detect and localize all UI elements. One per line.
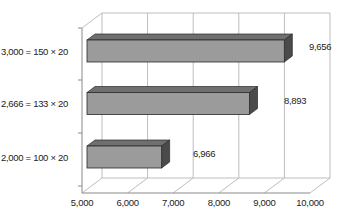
bar-top-face: [87, 87, 258, 93]
bar-chart-3d: 3,000 = 150 × 202,666 = 133 × 202,000 = …: [0, 0, 338, 215]
category-label: 3,000 = 150 × 20: [1, 46, 68, 57]
x-tick-label: 5,000: [71, 197, 93, 208]
x-tick-label: 10,000: [296, 197, 323, 208]
x-tick-label: 9,000: [253, 197, 275, 208]
floor-gridline: [128, 178, 148, 193]
bar-top-face: [87, 140, 170, 146]
floor-gridline: [310, 178, 330, 193]
bar-front-face: [87, 93, 250, 115]
value-label: 8,893: [284, 95, 306, 106]
floor-gridline: [219, 178, 239, 193]
bar-front-face: [87, 40, 284, 62]
value-label: 9,656: [309, 41, 331, 52]
floor-gridline: [264, 178, 284, 193]
chart-canvas: 3,000 = 150 × 202,666 = 133 × 202,000 = …: [0, 0, 338, 215]
floor-gridline: [173, 178, 193, 193]
floor-gridline: [82, 178, 102, 193]
category-label: 2,666 = 133 × 20: [1, 98, 68, 109]
side-wall-top-edge: [82, 13, 102, 28]
category-label: 2,000 = 100 × 20: [1, 152, 68, 163]
value-label: 6,966: [193, 148, 215, 159]
x-tick-labels: 5,0006,0007,0008,0009,00010,000: [71, 197, 324, 208]
x-tick-label: 8,000: [208, 197, 230, 208]
bar-front-face: [87, 146, 162, 168]
bar-top-face: [87, 34, 292, 40]
category-labels: 3,000 = 150 × 202,666 = 133 × 202,000 = …: [1, 46, 68, 163]
x-tick-label: 7,000: [162, 197, 184, 208]
bars: [87, 34, 292, 168]
x-tick-label: 6,000: [116, 197, 138, 208]
